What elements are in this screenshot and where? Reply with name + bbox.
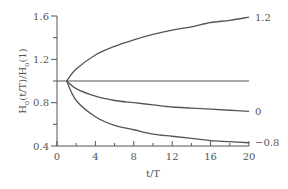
curve-0 bbox=[67, 81, 249, 111]
x-tick-label: 16 bbox=[204, 151, 217, 162]
curve-1p2 bbox=[67, 17, 249, 81]
line-chart: 0481216200.40.81.21.6 1.20−0.8 t/T Ho(t/… bbox=[0, 0, 288, 189]
curves bbox=[57, 17, 249, 143]
y-tick-label: 1.6 bbox=[33, 11, 49, 22]
x-tick-label: 4 bbox=[92, 151, 98, 162]
curve-labels: 1.20−0.8 bbox=[255, 12, 279, 149]
x-tick-label: 8 bbox=[131, 151, 137, 162]
x-tick-label: 20 bbox=[243, 151, 256, 162]
y-tick-label: 0.4 bbox=[33, 141, 49, 152]
y-tick-label: 0.8 bbox=[33, 97, 49, 108]
curve-label: 0 bbox=[255, 106, 261, 117]
tick-labels: 0481216200.40.81.21.6 bbox=[33, 11, 255, 163]
curve-neg0p8 bbox=[67, 81, 249, 143]
x-tick-label: 0 bbox=[54, 151, 60, 162]
curve-label: 1.2 bbox=[255, 12, 271, 23]
x-axis-title: t/T bbox=[146, 168, 160, 179]
curve-label: −0.8 bbox=[255, 137, 279, 148]
x-tick-label: 12 bbox=[166, 151, 179, 162]
y-tick-label: 1.2 bbox=[33, 54, 49, 65]
y-axis-title: Ho(t/T)/Ho(1) bbox=[17, 48, 31, 113]
